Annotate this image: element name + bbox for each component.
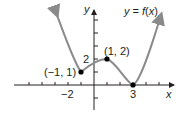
y-axis-label: y	[83, 3, 91, 15]
point-label-neg1-1: (−1, 1)	[44, 66, 76, 78]
x-axis-label: x	[165, 88, 172, 100]
y-tick-label-2: 2	[83, 53, 89, 65]
point-3-0	[130, 82, 135, 87]
function-graph: y x y = f(x) 2 −2 3 (−1, 1) (1, 2)	[0, 0, 185, 120]
x-tick-label-3: 3	[130, 88, 136, 100]
y-axis-ticks	[94, 20, 98, 98]
point-1-2	[104, 56, 109, 61]
point-label-1-2: (1, 2)	[104, 45, 130, 57]
x-tick-label-neg2: −2	[61, 88, 74, 100]
function-label: y = f(x)	[123, 5, 158, 17]
point-neg1-1	[78, 69, 83, 74]
